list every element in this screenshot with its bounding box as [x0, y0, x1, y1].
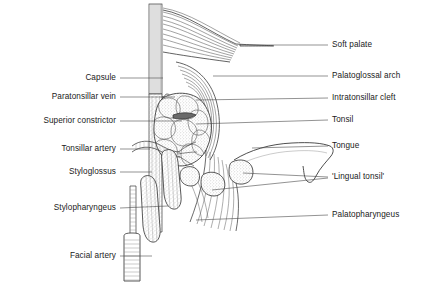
lingual-tonsil-nodule-2 [201, 172, 225, 196]
leader-lingual-tonsil-b [212, 178, 328, 190]
label-palatopharyngeus: Palatopharyngeus [332, 211, 399, 219]
label-intratonsillar-cleft: Intratonsillar cleft [332, 94, 396, 102]
soft-palate-group [163, 8, 274, 62]
label-tonsil: Tonsil [332, 116, 353, 124]
facial-artery-group [124, 186, 140, 281]
label-tonsillar-artery: Tonsillar artery [61, 145, 116, 153]
facial-artery-stem [130, 186, 136, 236]
label-lingual-tonsil: 'Lingual tonsil' [332, 173, 384, 181]
label-facial-artery: Facial artery [70, 252, 116, 260]
anatomical-figure: CapsuleParatonsillar veinSuperior constr… [0, 0, 428, 287]
label-styloglossus: Styloglossus [69, 168, 116, 176]
label-paratonsillar-vein: Paratonsillar vein [52, 93, 116, 101]
label-palatoglossal-arch: Palatoglossal arch [332, 72, 400, 80]
lingual-tonsil-nodule-1 [229, 160, 253, 184]
label-tongue: Tongue [332, 142, 359, 150]
label-capsule: Capsule [85, 74, 116, 82]
leader-palatopharyngeus [196, 215, 328, 220]
label-soft-palate: Soft palate [332, 41, 372, 49]
lingual-tonsil-group [180, 160, 253, 196]
label-superior-constrictor: Superior constrictor [43, 117, 116, 125]
lingual-tonsil-nodule-3 [180, 167, 200, 186]
leader-tonsil [196, 120, 328, 124]
label-stylopharyngeus: Stylopharyngeus [54, 204, 116, 212]
